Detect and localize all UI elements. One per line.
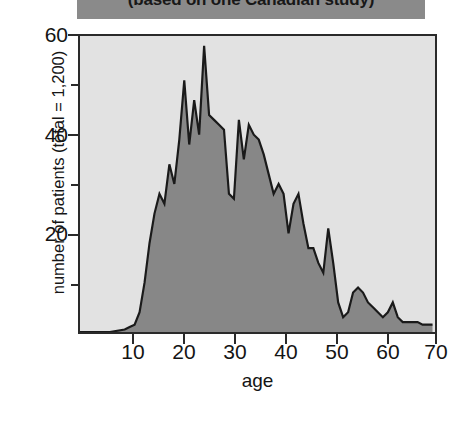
x-tick-label-40: 40 — [264, 340, 308, 363]
data-area-svg — [80, 36, 435, 332]
plot-area — [78, 34, 437, 334]
x-tick-label-10: 10 — [111, 340, 155, 363]
x-tick-label-20: 20 — [162, 340, 206, 363]
x-axis-title: age — [78, 370, 437, 392]
x-tick-label-50: 50 — [315, 340, 359, 363]
y-tick-mark-20 — [68, 234, 78, 236]
y-tick-mark-10 — [71, 284, 78, 286]
y-axis-title: number of patients (total = 1,200) — [49, 18, 68, 328]
y-tick-mark-50 — [71, 84, 78, 86]
y-tick-mark-60 — [68, 34, 78, 36]
y-tick-label-40: 40 — [28, 124, 68, 145]
y-tick-label-20: 20 — [28, 223, 68, 244]
x-tick-label-60: 60 — [366, 340, 410, 363]
patients-area-polygon — [80, 46, 433, 332]
histogram-chart: number of patients (total = 1,200) 60 40… — [0, 0, 475, 421]
y-tick-mark-40 — [68, 134, 78, 136]
x-tick-label-70: 70 — [414, 340, 458, 363]
x-tick-label-30: 30 — [213, 340, 257, 363]
y-tick-label-60: 60 — [28, 24, 68, 45]
y-tick-mark-30 — [71, 184, 78, 186]
